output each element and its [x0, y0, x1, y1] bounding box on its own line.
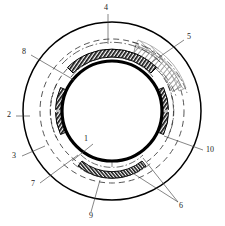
inner-thick-circle [62, 61, 162, 161]
callout-label-7: 7 [31, 180, 35, 188]
callout-label-4: 4 [104, 4, 108, 12]
callout-label-3: 3 [12, 152, 16, 160]
figure-canvas: 1 2 3 4 5 6 7 8 9 10 [0, 0, 225, 226]
callout-label-2: 2 [7, 111, 11, 119]
callout-label-8: 8 [22, 48, 26, 56]
callout-label-10: 10 [206, 146, 214, 154]
technical-drawing-svg [0, 0, 225, 226]
callout-label-9: 9 [89, 212, 93, 220]
callout-label-6: 6 [179, 202, 183, 210]
callout-label-5: 5 [187, 33, 191, 41]
callout-label-1: 1 [84, 135, 88, 143]
